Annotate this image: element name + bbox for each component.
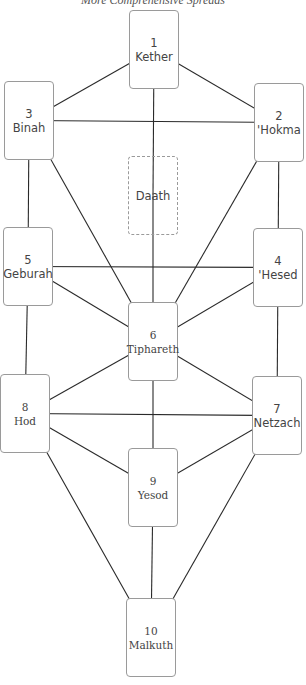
- card-netzach[interactable]: 7 Netzach: [252, 376, 302, 455]
- card-name: Kether: [135, 50, 173, 64]
- card-tiphareth[interactable]: 6 Tiphareth: [128, 302, 178, 381]
- card-number: 7: [273, 402, 280, 416]
- card-number: 1: [150, 36, 157, 50]
- card-name: 'Hesed: [258, 268, 297, 282]
- card-geburah[interactable]: 5 Geburah: [3, 227, 53, 306]
- path-geburah-hesed: [28, 267, 278, 268]
- card-daath[interactable]: Daath: [128, 156, 178, 235]
- card-number: 9: [150, 474, 157, 488]
- card-name: Binah: [13, 121, 46, 135]
- card-number: 4: [274, 254, 281, 268]
- card-name: Geburah: [3, 267, 53, 281]
- card-name: Yesod: [138, 488, 169, 502]
- card-kether[interactable]: 1 Kether: [129, 10, 179, 89]
- card-name: Netzach: [254, 416, 301, 430]
- card-number: 3: [25, 107, 32, 121]
- card-number: 8: [22, 400, 29, 414]
- card-hokma[interactable]: 2 'Hokma: [254, 83, 304, 162]
- card-number: 2: [275, 109, 282, 123]
- card-name: 'Hokma: [257, 123, 301, 137]
- card-number: 6: [150, 328, 157, 342]
- card-hesed[interactable]: 4 'Hesed: [253, 228, 303, 307]
- card-name: Daath: [136, 189, 171, 203]
- card-name: Tiphareth: [127, 342, 179, 356]
- card-name: Malkuth: [129, 638, 173, 652]
- card-name: Hod: [14, 414, 36, 428]
- card-hod[interactable]: 8 Hod: [0, 374, 50, 453]
- card-yesod[interactable]: 9 Yesod: [128, 448, 178, 527]
- card-number: 5: [24, 253, 31, 267]
- card-binah[interactable]: 3 Binah: [4, 81, 54, 160]
- card-malkuth[interactable]: 10 Malkuth: [126, 598, 176, 677]
- card-number: 10: [144, 624, 157, 638]
- path-hod-netzach: [25, 414, 277, 416]
